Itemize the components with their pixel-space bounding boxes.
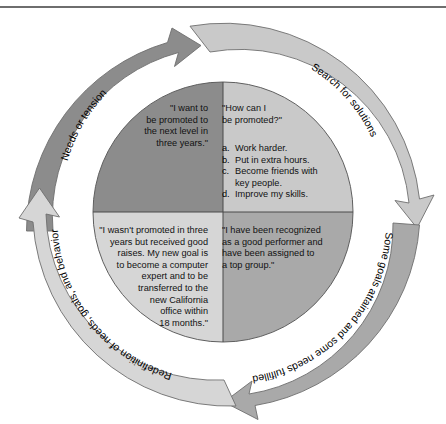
list-item: a. Work harder. — [222, 143, 352, 155]
quadrant-top-left-text: "I want to be promoted to the next level… — [108, 103, 208, 149]
list-item: c. Become friends with key people. — [222, 166, 352, 189]
cycle-diagram-figure: Needs or tension Search for solutions So… — [0, 0, 446, 424]
quadrant-bottom-right-text: "I have been recognized as a good perfor… — [222, 225, 347, 271]
solution-options-list: a. Work harder. b. Put in extra hours. c… — [222, 143, 352, 201]
option-key: b. — [222, 155, 235, 167]
option-text: Work harder. — [235, 143, 352, 155]
list-item: b. Put in extra hours. — [222, 155, 352, 167]
option-text: Improve my skills. — [235, 189, 352, 201]
quadrant-bottom-left-text: "I wasn't promoted in three years but re… — [68, 225, 208, 329]
option-key: d. — [222, 189, 235, 201]
option-text: Become friends with key people. — [235, 166, 352, 189]
option-key: a. — [222, 143, 235, 155]
option-text: Put in extra hours. — [235, 155, 352, 167]
cycle-diagram-svg: Needs or tension Search for solutions So… — [0, 0, 446, 424]
list-item: d. Improve my skills. — [222, 189, 352, 201]
quadrant-top-right-heading: "How can I be promoted?" — [222, 103, 346, 126]
option-key: c. — [222, 166, 235, 178]
